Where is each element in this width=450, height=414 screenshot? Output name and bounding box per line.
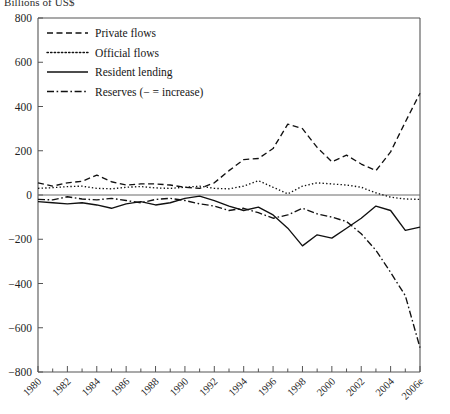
x-tick-label-2004: 2004	[373, 375, 396, 398]
series-line-official-flows	[38, 181, 420, 200]
x-tick-label-1996: 1996	[256, 376, 279, 399]
series-line-resident-lending	[38, 196, 420, 246]
y-tick-label--400: −400	[8, 278, 32, 290]
x-tick-label-1982: 1982	[50, 376, 73, 399]
series-line-private-flows	[38, 93, 420, 188]
legend-label-reserves: Reserves (− = increase)	[95, 86, 204, 99]
y-tick-label--600: −600	[8, 322, 32, 334]
x-tick-label-2006e: 2006e	[399, 375, 425, 401]
x-tick-label-1992: 1992	[197, 376, 220, 399]
chart-root: Billions of US$ 8006004002000−200−400−60…	[0, 0, 450, 414]
x-tick-label-1994: 1994	[226, 375, 249, 398]
x-tick-label-1984: 1984	[80, 375, 103, 398]
x-tick-label-1988: 1988	[138, 376, 161, 399]
x-axis-tick-group: 1980198219841986198819901992199419961998…	[21, 366, 426, 402]
x-tick-label-1980: 1980	[21, 376, 44, 399]
y-tick-label-200: 200	[15, 145, 33, 157]
series-line-reserves-increase	[38, 197, 420, 348]
y-tick-label-0: 0	[26, 189, 32, 201]
y-tick-label--800: −800	[8, 366, 32, 378]
x-tick-label-2000: 2000	[315, 376, 338, 399]
y-tick-label-800: 800	[15, 12, 33, 24]
y-tick-label--200: −200	[8, 233, 32, 245]
legend-label-official-flows: Official flows	[95, 47, 160, 59]
line-chart-plot: 8006004002000−200−400−600−800 1980198219…	[0, 0, 450, 414]
x-tick-label-1986: 1986	[109, 376, 132, 399]
legend-label-resident-lending: Resident lending	[95, 66, 173, 79]
x-tick-label-2002: 2002	[344, 376, 367, 399]
y-tick-label-400: 400	[15, 101, 33, 113]
y-tick-label-600: 600	[15, 56, 33, 68]
data-series-group	[38, 93, 420, 347]
x-tick-label-1990: 1990	[168, 376, 191, 399]
legend-label-private-flows: Private flows	[95, 27, 157, 39]
chart-legend: Private flowsOfficial flowsResident lend…	[47, 27, 204, 99]
x-tick-label-1998: 1998	[285, 376, 308, 399]
